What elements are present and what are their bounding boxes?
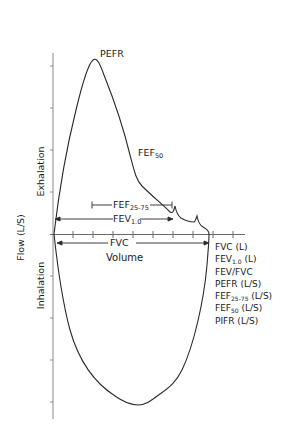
measurement-text: PIFR (L/S) xyxy=(215,316,258,326)
exhalation-text: Exhalation xyxy=(35,146,46,196)
fef2575-label: FEF25-75 xyxy=(113,199,149,210)
fev1-label: FEV1.0 xyxy=(113,213,141,224)
pefr-label: PEFR xyxy=(100,48,124,59)
measurement-suffix: (L/S) xyxy=(248,291,272,301)
measurement-pifr: PIFR (L/S) xyxy=(215,315,272,327)
flow-axis-text: Flow (L/S) xyxy=(15,214,26,261)
measurement-sub: 25-75 xyxy=(231,295,248,302)
fev1-base: FEV xyxy=(113,213,131,224)
measurement-fvc: FVC (L) xyxy=(215,241,272,253)
fef50-sub: 50 xyxy=(155,152,163,160)
volume-axis-label: Volume xyxy=(106,252,143,263)
fvc-label: FVC xyxy=(110,237,129,248)
measurement-suffix: (L/S) xyxy=(239,303,263,313)
volume-axis-text: Volume xyxy=(106,252,143,263)
fvc-arrow xyxy=(57,241,209,245)
measurement-list: FVC (L) FEV1.0 (L) FEV/FVC PEFR (L/S) FE… xyxy=(215,241,272,327)
measurement-text: FEV/FVC xyxy=(215,267,253,277)
measurement-text: FVC (L) xyxy=(215,242,248,252)
measurement-suffix: (L) xyxy=(242,254,257,264)
measurement-text: FEV xyxy=(215,254,232,264)
fef2575-sub: 25-75 xyxy=(130,204,149,212)
inhalation-text: Inhalation xyxy=(35,262,46,309)
measurement-fef50: FEF50 (L/S) xyxy=(215,302,272,314)
exhalation-label: Exhalation xyxy=(35,144,46,200)
measurement-fev1: FEV1.0 (L) xyxy=(215,253,272,265)
measurement-fev-fvc: FEV/FVC xyxy=(215,266,272,278)
measurement-fef2575: FEF25-75 (L/S) xyxy=(215,290,272,302)
measurement-text: FEF xyxy=(215,303,231,313)
fvc-text: FVC xyxy=(110,237,129,248)
flow-axis-label: Flow (L/S) xyxy=(15,208,26,268)
flow-volume-loop-diagram xyxy=(0,0,301,438)
fev1-sub: 1.0 xyxy=(131,218,141,226)
measurement-sub: 1.0 xyxy=(232,258,242,265)
fef50-base: FEF xyxy=(138,147,155,158)
pefr-text: PEFR xyxy=(100,48,124,59)
fef50-label: FEF50 xyxy=(138,147,163,158)
measurement-sub: 50 xyxy=(231,307,239,314)
fef2575-base: FEF xyxy=(113,199,130,210)
measurement-pefr: PEFR (L/S) xyxy=(215,278,272,290)
measurement-text: PEFR (L/S) xyxy=(215,279,261,289)
inhalation-label: Inhalation xyxy=(35,258,46,314)
measurement-text: FEF xyxy=(215,291,231,301)
